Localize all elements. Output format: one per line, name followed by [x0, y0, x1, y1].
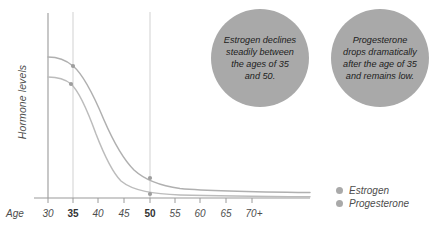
x-tick-65: 65	[220, 208, 231, 219]
curve-markers	[69, 64, 152, 196]
x-tick-40: 40	[92, 208, 103, 219]
annotation-bubble-estrogen-text: Estrogen declines steadily between the a…	[215, 34, 305, 83]
annotation-bubble-progesterone: Progesterone drops dramatically after th…	[331, 9, 429, 107]
estrogen-marker-35	[71, 64, 75, 68]
x-tick-35: 35	[67, 208, 78, 219]
legend-dot-progesterone	[336, 200, 343, 207]
progesterone-marker-35	[69, 82, 73, 86]
legend-dot-estrogen	[336, 187, 343, 194]
chart-container: Hormone levels Age 30 35 40 45 50 55 60 …	[0, 0, 446, 230]
legend-item-progesterone[interactable]: Progesterone	[336, 198, 409, 209]
x-axis-name: Age	[6, 208, 24, 219]
legend-label-progesterone: Progesterone	[349, 198, 409, 209]
annotation-bubble-estrogen: Estrogen declines steadily between the a…	[211, 9, 309, 107]
x-tick-55: 55	[169, 208, 180, 219]
legend: Estrogen Progesterone	[336, 185, 409, 209]
x-tick-70plus: 70+	[246, 208, 263, 219]
legend-item-estrogen[interactable]: Estrogen	[336, 185, 409, 196]
progesterone-marker-50	[148, 192, 152, 196]
x-tick-50: 50	[144, 208, 155, 219]
y-axis-label: Hormone levels	[16, 54, 28, 150]
x-tick-60: 60	[194, 208, 205, 219]
estrogen-marker-50	[148, 176, 152, 180]
legend-label-estrogen: Estrogen	[349, 185, 389, 196]
x-tick-30: 30	[42, 208, 53, 219]
x-tick-45: 45	[118, 208, 129, 219]
annotation-bubble-progesterone-text: Progesterone drops dramatically after th…	[334, 34, 426, 83]
x-axis-ticks	[48, 198, 252, 203]
